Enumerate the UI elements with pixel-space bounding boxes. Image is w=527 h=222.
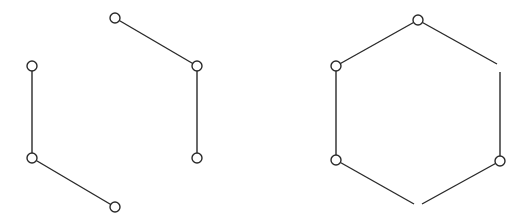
edge-segment-4	[422, 161, 500, 204]
node-L2	[192, 61, 202, 71]
edge-segment-1	[418, 20, 497, 64]
node-R3	[331, 155, 341, 165]
node-L1	[110, 13, 120, 23]
graph-diagram	[0, 0, 527, 222]
edge-L1-L2	[115, 18, 197, 66]
right-graph	[331, 15, 505, 204]
node-L5	[27, 153, 37, 163]
left-graph	[27, 13, 202, 212]
node-L6	[27, 61, 37, 71]
node-L3	[192, 153, 202, 163]
edge-L5-L4	[32, 158, 115, 207]
node-R4	[495, 156, 505, 166]
node-L4	[110, 202, 120, 212]
node-R2	[331, 61, 341, 71]
edge-segment-3	[336, 160, 414, 204]
node-R1	[413, 15, 423, 25]
edge-segment-0	[336, 20, 418, 66]
